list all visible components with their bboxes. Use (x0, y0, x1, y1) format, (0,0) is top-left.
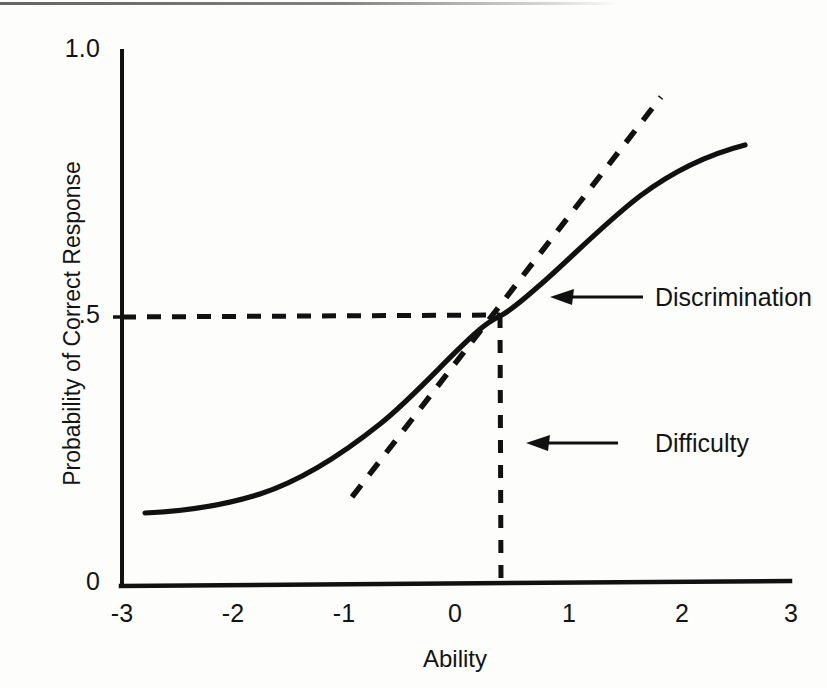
x-tick-label-1: 1 (543, 599, 595, 628)
difficulty-annotation-label: Difficulty (655, 429, 749, 458)
y-tick-label-zero: 0 (38, 567, 100, 596)
x-tick-label-neg1: -1 (318, 599, 370, 628)
item-characteristic-curve-figure: 1.0 .5 0 -3 -2 -1 0 1 2 3 Probability of… (0, 0, 827, 688)
x-axis-line (121, 581, 790, 586)
x-tick-label-3: 3 (765, 599, 817, 628)
chart-plot-area (0, 0, 827, 688)
difficulty-reference-line (500, 315, 501, 584)
y-tick-label-1: 1.0 (38, 34, 100, 63)
x-tick-label-2: 2 (656, 599, 708, 628)
x-axis-title: Ability (340, 645, 570, 673)
discrimination-annotation-label: Discrimination (655, 283, 812, 312)
x-tick-label-0: 0 (429, 599, 481, 628)
y-axis-title: Probability of Correct Response (59, 134, 86, 514)
x-tick-label-neg3: -3 (96, 599, 148, 628)
difficulty-arrow (526, 435, 618, 451)
probability-half-reference-line (122, 315, 500, 317)
discrimination-arrow (550, 289, 643, 305)
x-tick-label-neg2: -2 (207, 599, 259, 628)
